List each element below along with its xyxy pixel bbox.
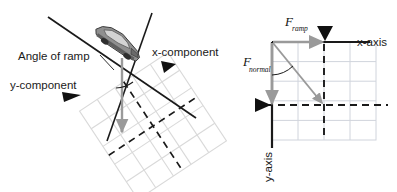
x-component-label: x-component bbox=[152, 46, 219, 58]
y-component-label: y-component bbox=[10, 79, 77, 91]
x-axis-label: x-axis bbox=[357, 36, 387, 48]
y-axis-label: y-axis bbox=[262, 152, 274, 182]
angle-of-ramp-label: Angle of ramp bbox=[18, 50, 90, 62]
physics-ramp-figure: Angle of ramp x-component y-component bbox=[0, 0, 397, 192]
f-ramp-subscript: ramp bbox=[292, 24, 308, 33]
f-normal-subscript: normal bbox=[249, 65, 271, 74]
figure-background bbox=[0, 0, 397, 192]
component-intersection-dot bbox=[120, 129, 123, 132]
